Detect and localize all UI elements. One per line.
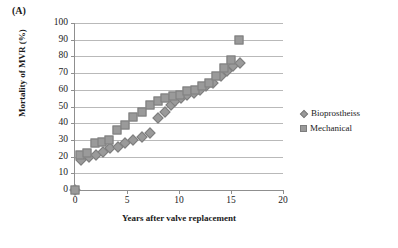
legend-item[interactable]: Bioprostheiss — [300, 106, 360, 121]
plot-area: 0102030405060708090100 05101520 — [75, 23, 283, 190]
data-point — [105, 135, 114, 144]
diamond-marker-icon — [300, 109, 308, 117]
data-point — [219, 64, 228, 73]
figure-panel-a: (A) Mortality of MVR (%) Years after val… — [0, 0, 398, 248]
y-tick-label: 10 — [59, 169, 69, 179]
gridline — [75, 173, 283, 174]
legend-item-label: Bioprostheiss — [311, 109, 360, 118]
data-point — [227, 55, 236, 64]
gridline — [75, 107, 283, 108]
y-tick-label: 20 — [59, 152, 69, 162]
square-marker-icon — [300, 125, 307, 132]
y-tick-label: 30 — [59, 135, 69, 145]
y-tick-label: 40 — [59, 118, 69, 128]
y-tick-label: 60 — [59, 85, 69, 95]
gridline — [75, 40, 283, 41]
gridline — [75, 123, 283, 124]
data-point — [212, 72, 221, 81]
data-point — [83, 149, 92, 158]
panel-label: (A) — [12, 5, 26, 16]
y-tick-label: 100 — [54, 18, 68, 28]
data-point — [235, 35, 244, 44]
legend-item[interactable]: Mechanical — [300, 121, 360, 136]
gridline — [75, 23, 283, 24]
y-tick-label: 0 — [63, 185, 68, 195]
x-tick-label: 20 — [278, 196, 288, 206]
x-axis-line — [74, 190, 283, 191]
y-tick-label: 80 — [59, 52, 69, 62]
y-tick-label: 90 — [59, 35, 69, 45]
chart-legend: BioprostheissMechanical — [300, 106, 360, 136]
y-axis-line — [74, 23, 75, 190]
y-tick-label: 70 — [59, 68, 69, 78]
x-tick-mark — [283, 190, 284, 194]
gridline — [75, 56, 283, 57]
data-point — [71, 186, 80, 195]
x-tick-label: 10 — [174, 196, 184, 206]
x-tick-label: 0 — [73, 196, 78, 206]
x-tick-label: 5 — [125, 196, 130, 206]
x-tick-label: 15 — [226, 196, 236, 206]
gridline — [75, 73, 283, 74]
legend-item-label: Mechanical — [310, 124, 352, 133]
y-axis-title: Mortality of MVR (%) — [17, 25, 27, 121]
x-axis-title: Years after valve replacement — [75, 213, 283, 223]
data-point — [120, 120, 129, 129]
gridline — [75, 157, 283, 158]
y-tick-label: 50 — [59, 102, 69, 112]
